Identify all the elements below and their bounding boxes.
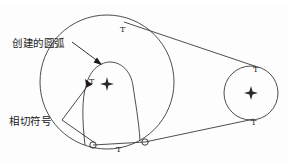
top-margin-spacer (0, 0, 288, 4)
tangent-mark-small-circle-top: T (253, 66, 258, 74)
tangent-symbol-leader-line-b (62, 120, 95, 143)
label-tangent-symbol: 相切符号 (9, 116, 51, 127)
tangent-mark-big-circle-top: T (120, 26, 125, 34)
inner-arc-center-mark-icon (100, 77, 114, 91)
created-arc-path (83, 62, 140, 145)
created-arc-leader-line (72, 42, 99, 62)
tangent-mark-bottom-middle: T (116, 146, 121, 154)
upper-tangent-line (124, 22, 256, 67)
lower-tangent-line (145, 119, 254, 142)
bottom-margin-spacer (0, 162, 288, 166)
cad-diagram-canvas: 创建的圆弧 相切符号 T T T T T (0, 0, 288, 166)
tangent-mark-inner-arc-left: T (89, 78, 94, 86)
diagram-vector-layer (0, 0, 288, 166)
tangent-symbol-leader-line-a (62, 84, 89, 120)
tangent-mark-small-circle-bottom: T (251, 119, 256, 127)
label-created-arc: 创建的圆弧 (12, 38, 65, 49)
small-circle-center-mark-icon (244, 86, 258, 100)
